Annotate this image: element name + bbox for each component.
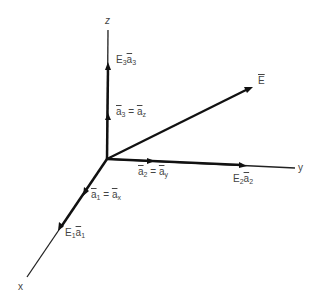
e2-component-label: E2a2 — [233, 174, 253, 185]
a3-arrowhead — [105, 113, 111, 120]
z-component-arrowhead — [105, 62, 111, 70]
y-axis-label: y — [298, 163, 303, 173]
z-component-vector — [107, 67, 108, 159]
x-axis-label: x — [18, 282, 23, 292]
a2-arrowhead — [147, 158, 155, 164]
a2-unit-vector-label: a2 = ay — [138, 167, 168, 178]
e3-component-label: E3a3 — [116, 55, 136, 66]
coordinate-diagram — [0, 0, 322, 303]
e1-component-label: E1a1 — [65, 228, 85, 239]
z-axis-label: z — [105, 16, 110, 26]
e-vector-label: E — [258, 76, 265, 86]
a1-unit-vector-label: a1 = ax — [91, 190, 121, 201]
a3-unit-vector-label: a3 = az — [116, 107, 146, 118]
e-vector — [107, 89, 248, 159]
y-component-vector — [107, 159, 242, 165]
